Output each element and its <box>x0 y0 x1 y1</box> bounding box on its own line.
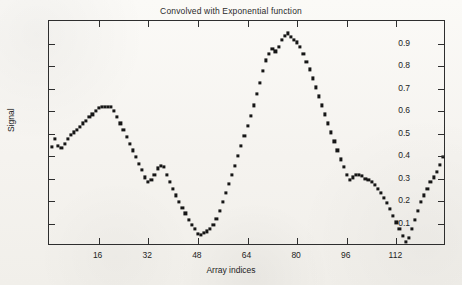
data-point <box>255 93 258 96</box>
data-point <box>66 138 69 141</box>
data-point <box>97 106 100 109</box>
y-axis-tick <box>49 201 55 202</box>
data-point <box>230 174 233 177</box>
data-point <box>72 131 75 134</box>
data-point <box>168 180 171 183</box>
y-axis-title: Signal <box>6 108 16 132</box>
data-point <box>286 32 289 35</box>
data-point <box>401 234 404 237</box>
y-axis-tick-right <box>438 179 444 180</box>
data-point <box>413 219 416 222</box>
data-point <box>128 142 131 145</box>
x-axis-tick <box>148 238 149 244</box>
x-axis-tick-top <box>248 21 249 27</box>
x-axis-tick-label: 112 <box>389 250 403 260</box>
data-point <box>311 77 314 80</box>
data-point <box>373 184 376 187</box>
data-point <box>134 156 137 159</box>
data-point <box>147 180 150 183</box>
y-axis-tick <box>49 134 55 135</box>
data-point <box>252 104 255 107</box>
data-point <box>209 228 212 231</box>
data-point <box>327 122 330 125</box>
y-axis-tick-right <box>438 134 444 135</box>
data-point <box>265 59 268 62</box>
data-point <box>420 201 423 204</box>
data-point <box>57 144 60 147</box>
data-point <box>410 228 413 231</box>
data-point <box>116 115 119 118</box>
data-point <box>274 50 277 53</box>
x-axis-tick-top <box>198 21 199 27</box>
data-point <box>199 233 202 236</box>
data-point <box>106 105 109 108</box>
data-point <box>261 69 264 72</box>
y-axis-tick <box>49 224 55 225</box>
data-point <box>289 35 292 38</box>
data-point <box>330 131 333 134</box>
data-point <box>60 147 63 150</box>
data-point <box>103 105 106 108</box>
x-axis-tick-top <box>99 21 100 27</box>
data-point <box>342 166 345 169</box>
data-point <box>271 48 274 51</box>
data-point <box>398 228 401 231</box>
data-point <box>119 122 122 125</box>
data-point <box>292 39 295 42</box>
data-point <box>178 201 181 204</box>
data-point <box>237 154 240 157</box>
data-point <box>379 192 382 195</box>
data-point <box>218 210 221 213</box>
data-point <box>416 210 419 213</box>
x-axis-tick-top <box>347 21 348 27</box>
data-point <box>153 174 156 177</box>
x-axis-tick-label: 64 <box>242 250 251 260</box>
data-point <box>181 206 184 209</box>
data-point <box>382 196 385 199</box>
y-axis-tick-label: 0.6 <box>398 105 410 115</box>
x-axis-tick-top <box>148 21 149 27</box>
x-axis-tick-label: 48 <box>192 250 201 260</box>
data-point <box>91 113 94 116</box>
plot-frame <box>48 20 445 245</box>
x-axis-tick-label: 96 <box>341 250 350 260</box>
data-point <box>137 162 140 165</box>
data-point <box>358 174 361 177</box>
data-point <box>385 202 388 205</box>
data-point <box>354 174 357 177</box>
data-point <box>280 39 283 42</box>
data-point <box>51 145 54 148</box>
data-point <box>212 223 215 226</box>
data-point <box>206 230 209 233</box>
data-point <box>296 41 299 44</box>
data-point <box>392 214 395 217</box>
data-point <box>249 114 252 117</box>
data-point <box>336 149 339 152</box>
data-point <box>63 142 66 145</box>
data-point <box>277 45 280 48</box>
data-point <box>162 166 165 169</box>
data-point <box>376 187 379 190</box>
data-point <box>320 104 323 107</box>
x-axis-tick <box>347 238 348 244</box>
x-axis-title: Array indices <box>0 265 462 275</box>
data-point <box>175 194 178 197</box>
y-axis-tick-right <box>438 66 444 67</box>
data-point <box>389 207 392 210</box>
data-point <box>305 60 308 63</box>
data-point <box>367 178 370 181</box>
data-point <box>351 176 354 179</box>
data-point <box>364 177 367 180</box>
data-point <box>171 187 174 190</box>
data-point <box>88 115 91 118</box>
data-point <box>159 165 162 168</box>
data-point <box>85 120 88 123</box>
data-point <box>224 192 227 195</box>
y-axis-tick <box>49 156 55 157</box>
data-point <box>156 167 159 170</box>
data-point <box>435 170 438 173</box>
data-point <box>323 113 326 116</box>
data-point <box>426 187 429 190</box>
data-point <box>438 163 441 166</box>
data-point <box>187 219 190 222</box>
